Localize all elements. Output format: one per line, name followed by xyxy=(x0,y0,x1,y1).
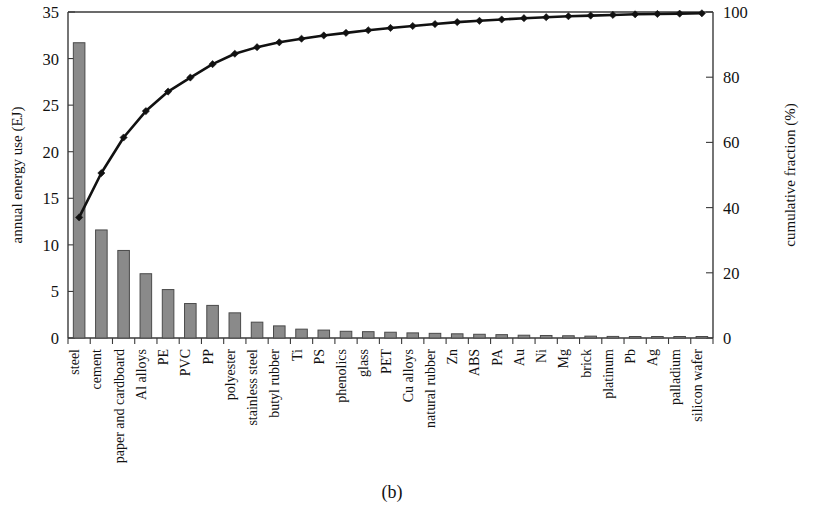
bar: PVC: 3.7 EJ xyxy=(185,304,197,338)
category-label: silicon wafer xyxy=(690,349,705,422)
bar: silicon wafer: 0.05 EJ xyxy=(696,337,708,339)
bar-series: steel: 31.7 EJcement: 11.6 EJpaper and c… xyxy=(73,43,707,338)
category-label: PA xyxy=(490,348,505,366)
cumulative-point: palladium: 99.5% xyxy=(676,10,683,17)
cumulative-point: silicon wafer: 99.6% xyxy=(698,10,705,17)
bar: stainless steel: 1.7 EJ xyxy=(251,322,263,338)
cumulative-point: PA: 97.7% xyxy=(498,16,505,23)
bar: polyester: 2.7 EJ xyxy=(229,313,241,338)
cumulative-point: stainless steel: 89.2% xyxy=(253,44,260,51)
bar: brick: 0.2 EJ xyxy=(585,336,597,338)
category-label: Ti xyxy=(290,349,305,361)
left-tick-label: 20 xyxy=(43,143,60,162)
bar: cement: 11.6 EJ xyxy=(96,230,108,338)
bar: palladium: 0.07 EJ xyxy=(674,337,686,339)
bar: platinum: 0.17 EJ xyxy=(607,336,619,338)
bar: Au: 0.3 EJ xyxy=(518,335,530,338)
category-label: steel xyxy=(67,349,82,375)
figure-panel-b: 05101520253035 020406080100 steel: 31.7 … xyxy=(0,0,815,507)
cumulative-line-series: steel: 37%cement: 50.6%paper and cardboa… xyxy=(76,10,706,221)
category-label: Pb xyxy=(623,349,638,364)
category-axis-ticks xyxy=(68,338,713,344)
left-tick-label: 25 xyxy=(43,96,60,115)
cumulative-point: natural rubber: 96.3% xyxy=(431,20,438,27)
left-tick-label: 35 xyxy=(43,3,60,22)
category-label: phenolics xyxy=(334,349,349,403)
category-label: Al alloys xyxy=(134,349,149,400)
bar: paper and cardboard: 9.4 EJ xyxy=(118,250,130,338)
cumulative-point: glass: 94.4% xyxy=(365,27,372,34)
cumulative-point: Cu alloys: 95.7% xyxy=(409,22,416,29)
bar: PS: 0.85 EJ xyxy=(318,330,330,338)
bar: PP: 3.5 EJ xyxy=(207,305,219,338)
category-label: butyl rubber xyxy=(267,349,282,418)
bar: glass: 0.68 EJ xyxy=(362,332,374,338)
cumulative-point: Ni: 98.4% xyxy=(543,14,550,21)
bar: natural rubber: 0.5 EJ xyxy=(429,333,441,338)
bar: steel: 31.7 EJ xyxy=(73,43,85,338)
left-tick-label: 15 xyxy=(43,189,60,208)
bar: Pb: 0.14 EJ xyxy=(629,337,641,339)
bar: Ti: 0.95 EJ xyxy=(296,329,308,338)
category-label: PE xyxy=(156,349,171,365)
right-tick-label: 20 xyxy=(723,264,740,283)
cumulative-point: PS: 92.8% xyxy=(320,32,327,39)
category-label: PS xyxy=(312,349,327,365)
cumulative-point: ABS: 97.3% xyxy=(476,17,483,24)
bar: PE: 5.2 EJ xyxy=(162,290,174,338)
category-label: PET xyxy=(379,349,394,374)
right-tick-label: 60 xyxy=(723,133,740,152)
category-label: Ag xyxy=(645,349,660,366)
right-axis-ticks xyxy=(706,12,713,338)
cumulative-point: phenolics: 93.6% xyxy=(342,29,349,36)
right-axis-tick-labels: 020406080100 xyxy=(723,3,748,348)
bar: Ni: 0.27 EJ xyxy=(540,335,552,338)
cumulative-point: Au: 98.1% xyxy=(520,15,527,22)
category-label: Mg xyxy=(556,349,571,368)
category-label: PP xyxy=(201,349,216,365)
right-axis-title: cumulative fraction (%) xyxy=(782,103,799,246)
left-axis-title: annual energy use (EJ) xyxy=(9,107,26,244)
bar: Al alloys: 6.9 EJ xyxy=(140,274,152,338)
bar: PA: 0.36 EJ xyxy=(496,335,508,338)
bar: Mg: 0.24 EJ xyxy=(563,336,575,338)
left-tick-label: 30 xyxy=(43,50,60,69)
left-tick-label: 10 xyxy=(43,236,60,255)
right-tick-label: 100 xyxy=(723,3,748,22)
category-axis-labels: steelcementpaper and cardboardAl alloysP… xyxy=(67,348,705,463)
cumulative-point: PET: 95.1% xyxy=(387,24,394,31)
right-tick-label: 40 xyxy=(723,199,740,218)
pareto-chart-svg: 05101520253035 020406080100 steel: 31.7 … xyxy=(0,0,815,507)
bar: butyl rubber: 1.3 EJ xyxy=(274,326,286,338)
category-label: stainless steel xyxy=(245,349,260,426)
bar: Cu alloys: 0.55 EJ xyxy=(407,333,419,338)
category-label: Ni xyxy=(534,349,549,363)
cumulative-point: brick: 98.9% xyxy=(587,12,594,19)
bar: Zn: 0.45 EJ xyxy=(451,334,463,338)
category-label: polyester xyxy=(223,349,238,401)
bar: ABS: 0.4 EJ xyxy=(474,334,486,338)
category-label: palladium xyxy=(668,349,683,405)
category-label: platinum xyxy=(601,349,616,399)
figure-caption: (b) xyxy=(382,482,403,503)
cumulative-point: Zn: 96.9% xyxy=(454,19,461,26)
category-label: ABS xyxy=(467,349,482,376)
category-label: PVC xyxy=(178,349,193,376)
cumulative-point: butyl rubber: 90.7% xyxy=(276,39,283,46)
category-label: Au xyxy=(512,349,527,366)
right-tick-label: 80 xyxy=(723,68,740,87)
right-tick-label: 0 xyxy=(723,329,731,348)
bar: phenolics: 0.72 EJ xyxy=(340,331,352,338)
left-tick-label: 5 xyxy=(51,282,59,301)
category-label: glass xyxy=(356,349,371,377)
bar: PET: 0.62 EJ xyxy=(385,332,397,338)
bar: Ag: 0.1 EJ xyxy=(652,337,664,339)
category-label: Cu alloys xyxy=(401,349,416,402)
category-label: cement xyxy=(89,349,104,390)
category-label: natural rubber xyxy=(423,349,438,428)
cumulative-line xyxy=(79,13,702,217)
cumulative-point: Mg: 98.7% xyxy=(565,13,572,20)
cumulative-point: Ti: 91.8% xyxy=(298,35,305,42)
category-label: brick xyxy=(579,349,594,378)
left-tick-label: 0 xyxy=(51,329,59,348)
